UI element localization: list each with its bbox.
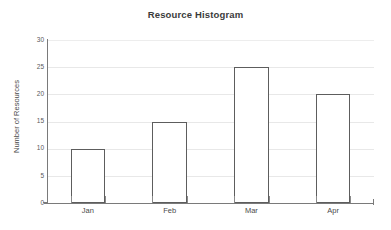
y-axis-line [47,39,48,204]
y-axis-tick-label: 15 [4,118,44,125]
y-axis-tick-label: 10 [4,145,44,152]
resource-histogram-chart: Resource Histogram Number of Resources 0… [0,0,391,230]
x-axis-line [44,203,374,204]
plot-area [47,40,374,203]
x-axis-label-feb: Feb [140,206,200,215]
bar-mar[interactable] [234,67,269,203]
x-axis-tick [71,196,72,203]
x-axis-tick [269,196,270,203]
x-axis-label-apr: Apr [303,206,363,215]
x-axis-tick [152,196,153,203]
x-axis-tick [350,196,351,203]
x-axis-tick [316,196,317,203]
x-axis-tick [234,196,235,203]
y-axis-tick-label: 25 [4,64,44,71]
y-axis-tick-label: 30 [4,37,44,44]
x-axis-tick [187,196,188,203]
bar-feb[interactable] [152,122,187,204]
y-axis-tick-labels: 051015202530 [0,0,44,230]
bar-jan[interactable] [71,149,106,203]
x-axis-label-mar: Mar [221,206,281,215]
y-axis-tick-label: 0 [4,200,44,207]
y-axis-tick-label: 20 [4,91,44,98]
gridline [47,67,374,68]
y-axis-tick-label: 5 [4,173,44,180]
x-axis-label-jan: Jan [58,206,118,215]
gridline [47,40,374,41]
chart-title: Resource Histogram [0,9,391,20]
x-axis-end-tick [373,199,374,205]
bar-apr[interactable] [316,94,351,203]
x-axis-tick [105,196,106,203]
